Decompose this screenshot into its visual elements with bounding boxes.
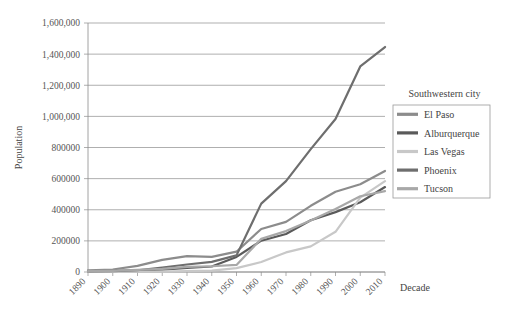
x-tick-label: 1940 [191, 276, 212, 297]
legend-label-phoenix: Phoenix [424, 165, 457, 176]
x-tick-label: 1930 [166, 276, 187, 297]
y-tick-label: 600000 [52, 174, 81, 184]
x-tick-label: 1970 [265, 276, 286, 297]
legend-entries-group: El PasoAlburquerqueLas VegasPhoenixTucso… [397, 109, 480, 194]
y-tick-label: 200000 [52, 236, 81, 246]
legend-label-el-paso: El Paso [424, 109, 454, 120]
population-line-chart: 02000004000006000008000001,000,0001,200,… [0, 0, 524, 313]
y-tick-label: 400000 [52, 205, 81, 215]
series-line-phoenix [88, 47, 385, 271]
y-tick-label: 1,400,000 [42, 50, 80, 60]
y-tick-label: 800000 [52, 143, 81, 153]
data-series-group [88, 47, 385, 272]
x-tick-label: 1910 [116, 276, 137, 297]
y-tick-label: 1,000,000 [42, 112, 80, 122]
gridlines-group [88, 23, 385, 272]
y-tick-labels-group: 02000004000006000008000001,000,0001,200,… [42, 18, 80, 277]
x-tick-label: 1980 [290, 276, 311, 297]
x-tick-label: 1990 [314, 276, 335, 297]
x-tick-label: 2010 [364, 276, 385, 297]
chart-canvas: 02000004000006000008000001,000,0001,200,… [0, 0, 524, 313]
series-line-tucson [88, 191, 385, 271]
x-tick-label: 1960 [240, 276, 261, 297]
x-tick-label: 1890 [67, 276, 88, 297]
x-axis-title: Decade [400, 282, 431, 293]
x-tick-label: 2000 [339, 276, 360, 297]
series-line-las-vegas [88, 181, 385, 272]
legend-title: Southwestern city [409, 88, 481, 99]
legend-label-las-vegas: Las Vegas [424, 146, 465, 157]
y-tick-marks-group [84, 23, 88, 272]
series-line-alburquerque [88, 187, 385, 271]
x-tick-label: 1900 [92, 276, 113, 297]
x-tick-label: 1920 [141, 276, 162, 297]
x-tick-labels-group: 1890190019101920193019401950196019701980… [67, 276, 385, 297]
x-tick-label: 1950 [215, 276, 236, 297]
legend-label-alburquerque: Alburquerque [424, 128, 480, 139]
legend-label-tucson: Tucson [424, 183, 453, 194]
y-axis-title: Population [13, 126, 24, 169]
y-tick-label: 1,200,000 [42, 81, 80, 91]
y-tick-label: 1,600,000 [42, 18, 80, 28]
